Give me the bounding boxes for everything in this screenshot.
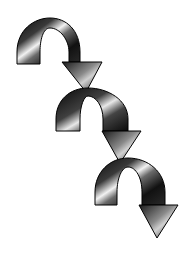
curved-arrow-icon [17, 18, 102, 92]
curved-arrow-icon [56, 88, 141, 163]
curved-arrow-icon [95, 158, 178, 238]
